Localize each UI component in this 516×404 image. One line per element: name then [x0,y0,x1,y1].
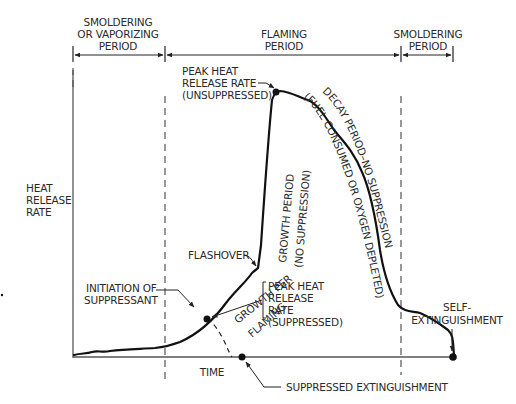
peak-unsuppressed-marker [273,89,280,96]
svg-text:PERIOD: PERIOD [265,40,304,52]
svg-text:RELEASE: RELEASE [26,194,72,206]
svg-text:(SUPPRESSED): (SUPPRESSED) [268,316,343,328]
label-no-suppression: (NO SUPPRESSION) [292,169,312,268]
svg-text:SMOLDERING: SMOLDERING [394,28,463,40]
svg-text:INITIATION OF: INITIATION OF [86,282,157,294]
label-growth-period-no-suppression: GROWTH PERIOD [276,173,296,263]
svg-text:PERIOD: PERIOD [409,40,448,52]
stray-dot [1,294,3,296]
annotation-initiation-of-suppressant: INITIATION OF SUPPRESSANT [84,282,194,307]
svg-text:SUPPRESSED EXTINGUISHMENT: SUPPRESSED EXTINGUISHMENT [286,381,449,393]
annotation-self-extinguishment: SELF- EXTINGUISHMENT [411,301,503,351]
svg-text:PERIOD: PERIOD [99,40,138,52]
svg-text:RELEASE RATE: RELEASE RATE [182,77,256,89]
self-extinguishment-marker [449,353,457,361]
svg-text:RATE: RATE [26,206,52,218]
svg-text:PEAK HEAT: PEAK HEAT [182,65,239,77]
svg-text:FLAMING: FLAMING [261,28,307,40]
heat-release-rate-diagram: SMOLDERING OR VAPORIZING PERIOD FLAMING … [0,0,516,404]
svg-text:SUPPRESSANT: SUPPRESSANT [84,294,159,306]
suppressed-extinguishment-marker [239,354,246,361]
x-axis-label: TIME [199,366,224,378]
annotation-suppressed-extinguishment: SUPPRESSED EXTINGUISHMENT [246,362,449,393]
svg-text:EXTINGUISHMENT: EXTINGUISHMENT [411,314,503,326]
label-decay-period: DECAY PERIOD–NO SUPPRESSION [321,84,396,249]
suppressed-curve [207,319,232,357]
period-label-smoldering-vaporizing: SMOLDERING OR VAPORIZING PERIOD [77,16,158,52]
svg-text:SELF-: SELF- [443,301,471,313]
period-label-smoldering: SMOLDERING PERIOD [394,28,463,52]
svg-text:OR VAPORIZING: OR VAPORIZING [77,28,158,40]
svg-text:SMOLDERING: SMOLDERING [84,16,153,28]
y-axis-label: HEAT RELEASE RATE [26,182,72,218]
annotation-flashover: FLASHOVER [188,249,256,266]
period-label-flaming: FLAMING PERIOD [261,28,307,52]
annotation-peak-unsuppressed: PEAK HEAT RELEASE RATE (UNSUPPRESSED) [182,65,274,101]
svg-text:FLASHOVER: FLASHOVER [188,249,249,261]
svg-text:HEAT: HEAT [26,182,53,194]
svg-text:(UNSUPPRESSED): (UNSUPPRESSED) [182,89,272,101]
peak-suppressed-marker [204,316,211,323]
